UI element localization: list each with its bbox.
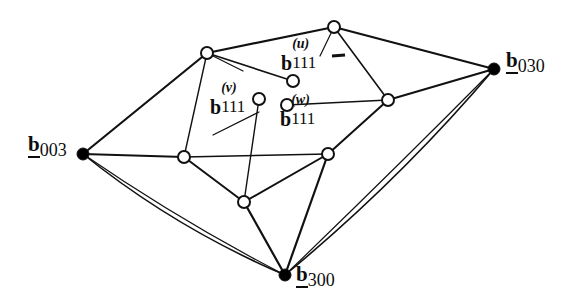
edge-top-apex-to-b030 <box>334 27 494 69</box>
label-b030-sub: 030 <box>518 56 545 76</box>
corner-point-b300 <box>279 269 291 281</box>
label-b111-u-base: b <box>281 53 292 73</box>
control-point-right-low <box>322 148 334 160</box>
label-b030: b030 <box>506 51 545 74</box>
control-point-b111u-node <box>287 75 299 87</box>
edge-left-mid-to-right-low <box>184 154 328 157</box>
label-b111-w-sub: 111 <box>291 110 315 127</box>
corner-point-b030 <box>488 63 500 75</box>
edge-bottom-mid-to-right-low <box>244 154 328 202</box>
label-b111-v-indices: (v)111 <box>221 92 251 114</box>
label-b111-u-sub: 111 <box>292 54 316 71</box>
inner-b003-b300 <box>83 154 285 275</box>
control-point-right-mid <box>382 94 394 106</box>
label-b111-u-sup: (u) <box>292 37 309 51</box>
control-point-left-mid <box>178 151 190 163</box>
label-b111-w: b(w)111 <box>280 104 321 129</box>
label-b030-base: b <box>506 51 518 74</box>
corner-point-b003 <box>77 148 89 160</box>
edge-left-mid-to-bottom-mid <box>184 157 244 202</box>
label-b111-u: b(u)111 <box>281 48 322 73</box>
edge-right-mid-to-right-low <box>328 100 388 154</box>
label-b300: b300 <box>296 265 335 288</box>
label-b111-v-sup: (v) <box>221 81 237 95</box>
label-b003: b003 <box>28 135 67 158</box>
label-b003-sub: 003 <box>40 140 67 160</box>
boundary-b003-b300 <box>83 154 285 275</box>
label-b111-w-indices: (w)111 <box>291 104 321 126</box>
label-b111-w-base: b <box>280 109 291 129</box>
control-net-drawing <box>0 0 575 306</box>
label-b300-base: b <box>296 265 308 288</box>
control-point-top-apex <box>328 21 340 33</box>
label-b111-w-sup: (w) <box>291 93 310 107</box>
control-point-upper-left <box>201 47 213 59</box>
label-b111-v-sub: 111 <box>221 98 245 115</box>
label-b003-base: b <box>28 135 40 158</box>
control-point-bottom-mid <box>238 196 250 208</box>
label-b111-u-indices: (u)111 <box>292 48 322 70</box>
corner-control-points <box>77 63 500 281</box>
control-point-b111v-node <box>253 93 265 105</box>
b111u-tick-mark <box>332 55 345 56</box>
label-b111-v-base: b <box>210 97 221 117</box>
label-b111-v: b(v)111 <box>210 92 251 117</box>
bezier-triangle-figure: b003 b030 b300 b(u)111 b(v)111 b(w)111 <box>0 0 575 306</box>
edge-b003-to-left-mid <box>83 154 184 157</box>
label-b300-sub: 300 <box>308 270 335 290</box>
